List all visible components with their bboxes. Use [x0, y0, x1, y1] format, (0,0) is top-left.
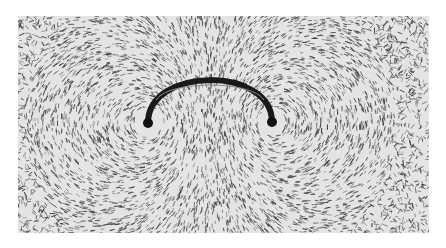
iron-filings-photo [18, 16, 429, 233]
semicircular-wire [18, 16, 429, 233]
wire-end-left [143, 118, 153, 128]
wire-end-right [267, 117, 277, 127]
